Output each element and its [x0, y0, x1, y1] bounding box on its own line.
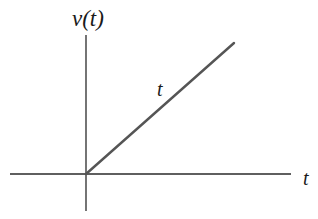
ramp-line [86, 43, 234, 174]
x-axis-label: t [303, 168, 309, 188]
y-axis-label: v(t) [72, 7, 104, 30]
ramp-function-diagram [0, 0, 318, 219]
curve-label: t [157, 79, 163, 99]
